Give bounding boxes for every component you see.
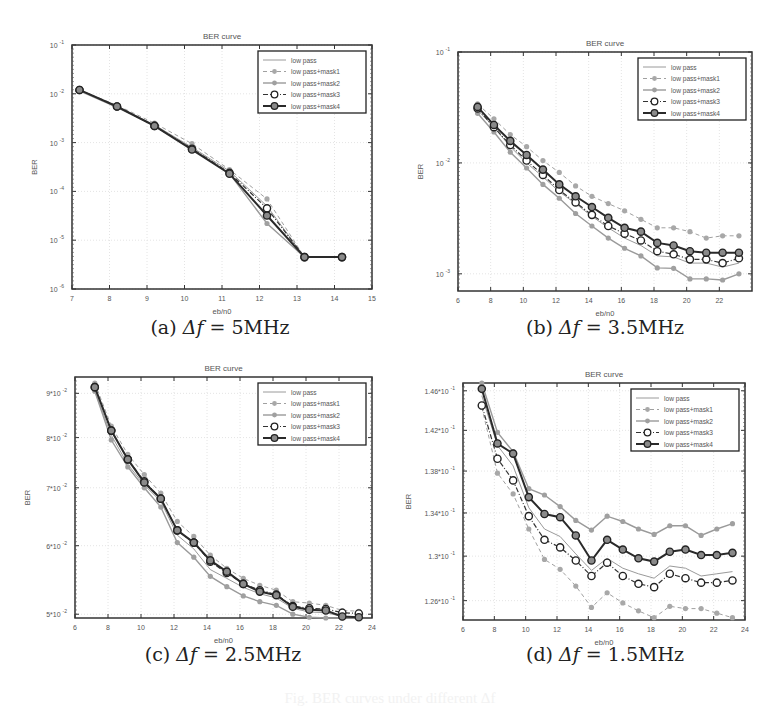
- svg-text:8: 8: [489, 297, 493, 304]
- svg-text:low pass+mask3: low pass+mask3: [664, 429, 713, 437]
- svg-text:low pass: low pass: [671, 64, 697, 72]
- figure-footer-caption: Fig. BER curves under different Δf: [0, 690, 780, 707]
- svg-text:low pass+mask2: low pass+mask2: [664, 418, 713, 426]
- svg-text:8: 8: [492, 626, 496, 633]
- y-axis-label: BER: [416, 163, 425, 179]
- svg-text:16: 16: [616, 626, 624, 633]
- legend-item: low pass+mask3: [636, 429, 713, 437]
- series-low-pass-mask3: [474, 105, 743, 267]
- svg-text:18: 18: [650, 297, 658, 304]
- chart-d-svg: 6810121416182022241.26*10 -11.3*10 -11.3…: [0, 345, 780, 675]
- svg-text:22: 22: [715, 297, 723, 304]
- series-low-pass-mask4: [474, 103, 743, 256]
- series-low-pass-mask2: [475, 111, 742, 283]
- svg-text:10 -1: 10 -1: [436, 46, 450, 56]
- svg-text:16: 16: [617, 297, 625, 304]
- svg-text:low pass: low pass: [664, 395, 690, 403]
- svg-text:20: 20: [678, 626, 686, 633]
- svg-text:10: 10: [519, 297, 527, 304]
- svg-text:14: 14: [585, 297, 593, 304]
- legend: low passlow pass+mask1low pass+mask2low …: [638, 58, 746, 120]
- legend: low passlow pass+mask1low pass+mask2low …: [631, 389, 739, 451]
- svg-text:20: 20: [683, 297, 691, 304]
- caption-b-value: = 3.5MHz: [580, 316, 684, 338]
- svg-text:22: 22: [710, 626, 718, 633]
- y-axis-label: BER: [404, 493, 413, 509]
- svg-text:1.34*10 -1: 1.34*10 -1: [424, 507, 455, 517]
- svg-text:1.46*10 -1: 1.46*10 -1: [424, 385, 455, 395]
- caption-d-value: = 1.5MHz: [580, 643, 684, 665]
- caption-b-prefix: (b): [526, 316, 559, 338]
- chart-title: BER curve: [586, 39, 625, 48]
- series-low-pass: [478, 110, 739, 267]
- caption-d-prefix: (d): [526, 643, 559, 665]
- svg-text:1.38*10 -1: 1.38*10 -1: [424, 465, 455, 475]
- svg-text:low pass+mask1: low pass+mask1: [664, 406, 713, 414]
- svg-text:18: 18: [647, 626, 655, 633]
- svg-text:10 -3: 10 -3: [436, 268, 450, 278]
- caption-b-symbol: Δf: [559, 316, 580, 338]
- svg-text:12: 12: [552, 297, 560, 304]
- svg-text:24: 24: [741, 626, 749, 633]
- svg-text:1.3*10 -1: 1.3*10 -1: [428, 550, 455, 560]
- caption-d: (d) Δf = 1.5MHz: [480, 643, 730, 665]
- caption-d-symbol: Δf: [559, 643, 580, 665]
- svg-text:low pass+mask4: low pass+mask4: [671, 110, 720, 118]
- legend-item: low pass+mask3: [643, 98, 720, 106]
- legend-item: low pass+mask4: [643, 110, 720, 118]
- caption-b: (b) Δf = 3.5MHz: [480, 316, 730, 338]
- chart-panel-b: 681012141618202210 -310 -210 -1BER curve…: [0, 0, 780, 345]
- svg-text:14: 14: [584, 626, 592, 633]
- svg-text:low pass+mask1: low pass+mask1: [671, 75, 720, 83]
- legend-item: low pass+mask4: [636, 441, 713, 449]
- svg-text:6: 6: [456, 297, 460, 304]
- svg-text:1.26*10 -1: 1.26*10 -1: [424, 595, 455, 605]
- svg-text:low pass+mask3: low pass+mask3: [671, 98, 720, 106]
- svg-text:1.42*10 -1: 1.42*10 -1: [424, 424, 455, 434]
- svg-text:12: 12: [553, 626, 561, 633]
- chart-panel-d: 6810121416182022241.26*10 -11.3*10 -11.3…: [0, 345, 780, 675]
- chart-b-svg: 681012141618202210 -310 -210 -1BER curve…: [0, 0, 780, 345]
- chart-title: BER curve: [585, 370, 624, 379]
- svg-text:low pass+mask4: low pass+mask4: [664, 441, 713, 449]
- svg-text:10: 10: [522, 626, 530, 633]
- svg-text:6: 6: [461, 626, 465, 633]
- svg-text:10 -2: 10 -2: [436, 157, 450, 167]
- series-group: [474, 101, 743, 282]
- svg-text:low pass+mask2: low pass+mask2: [671, 87, 720, 95]
